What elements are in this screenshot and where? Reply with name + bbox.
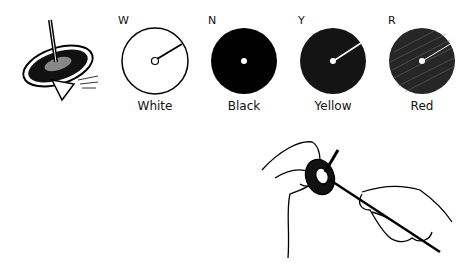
disc-letter-n: N — [208, 14, 216, 27]
disc-caption-white: White — [115, 99, 195, 113]
black-disc — [211, 28, 277, 94]
disc-letter-r: R — [388, 14, 396, 27]
disc-caption-red: Red — [382, 99, 462, 113]
disc-letter-w: W — [118, 14, 129, 27]
hands-with-top-icon — [262, 142, 452, 258]
disc-caption-yellow: Yellow — [293, 99, 373, 113]
disc-caption-black: Black — [204, 99, 284, 113]
red-disc — [389, 28, 455, 94]
white-disc — [122, 28, 188, 94]
disc-letter-y: Y — [298, 14, 305, 27]
spinning-top-icon — [18, 20, 98, 100]
yellow-disc — [300, 28, 366, 94]
diagram-canvas — [0, 0, 474, 270]
